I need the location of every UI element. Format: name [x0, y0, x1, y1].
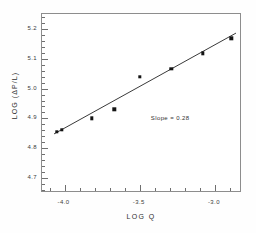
y-axis-minor-tick — [42, 77, 45, 78]
y-axis-minor-tick — [42, 53, 45, 54]
y-axis-major-tick — [42, 89, 48, 90]
y-axis-tick-label: 4.8 — [15, 144, 37, 150]
plot-data-layer — [42, 14, 240, 191]
y-axis-minor-tick — [42, 35, 45, 36]
y-axis-tick-label: 5.2 — [15, 25, 37, 31]
x-axis-minor-tick — [110, 188, 111, 191]
y-axis-minor-tick — [42, 106, 45, 107]
y-axis-minor-tick — [42, 172, 45, 173]
x-axis-minor-tick — [80, 188, 81, 191]
y-axis-major-tick — [42, 178, 48, 179]
y-axis-minor-tick — [42, 190, 45, 191]
x-axis-major-tick — [65, 185, 66, 191]
y-axis-tick-label: 5.0 — [15, 85, 37, 91]
y-axis-minor-tick — [42, 71, 45, 72]
x-axis-major-tick — [140, 185, 141, 191]
data-point — [112, 108, 115, 111]
data-point — [170, 67, 173, 70]
y-axis-minor-tick — [42, 112, 45, 113]
x-axis-tick-label: -4.0 — [58, 199, 70, 205]
y-axis-tick-label: 4.9 — [15, 114, 37, 120]
y-axis-minor-tick — [42, 47, 45, 48]
y-axis-major-tick — [42, 118, 48, 119]
x-axis-minor-tick — [155, 188, 156, 191]
fit-line — [42, 14, 242, 193]
x-axis-title: LOG Q — [41, 213, 241, 220]
x-axis-minor-tick — [200, 188, 201, 191]
data-point — [201, 52, 204, 55]
data-point — [55, 130, 58, 133]
x-axis-minor-tick — [185, 188, 186, 191]
x-axis-minor-tick — [95, 188, 96, 191]
slope-annotation: Slope = 0.28 — [151, 115, 190, 121]
plot-frame — [41, 13, 241, 192]
x-axis-minor-tick — [230, 188, 231, 191]
y-axis-major-tick — [42, 29, 48, 30]
y-axis-minor-tick — [42, 101, 45, 102]
y-axis-minor-tick — [42, 130, 45, 131]
y-axis-minor-tick — [42, 41, 45, 42]
x-axis-tick-label: -3.0 — [208, 199, 220, 205]
data-point — [90, 117, 93, 120]
x-axis-minor-tick — [50, 188, 51, 191]
y-axis-minor-tick — [42, 95, 45, 96]
x-axis-tick-label: -3.5 — [133, 199, 145, 205]
y-axis-minor-tick — [42, 142, 45, 143]
y-axis-major-tick — [42, 148, 48, 149]
x-axis-minor-tick — [125, 188, 126, 191]
y-axis-minor-tick — [42, 136, 45, 137]
y-axis-minor-tick — [42, 154, 45, 155]
y-axis-tick-label: 5.1 — [15, 55, 37, 61]
x-axis-minor-tick — [170, 188, 171, 191]
y-axis-minor-tick — [42, 166, 45, 167]
y-axis-minor-tick — [42, 23, 45, 24]
data-point — [230, 37, 233, 40]
figure-canvas: LOG Q LOG (ΔP/L) Slope = 0.28 -4.0-3.5-3… — [0, 0, 256, 233]
data-point — [138, 75, 141, 78]
y-axis-minor-tick — [42, 17, 45, 18]
y-axis-minor-tick — [42, 83, 45, 84]
x-axis-major-tick — [215, 185, 216, 191]
regression-line — [54, 33, 236, 134]
y-axis-minor-tick — [42, 160, 45, 161]
y-axis-major-tick — [42, 59, 48, 60]
y-axis-minor-tick — [42, 124, 45, 125]
y-axis-minor-tick — [42, 65, 45, 66]
y-axis-tick-label: 4.7 — [15, 174, 37, 180]
data-point — [60, 128, 63, 131]
y-axis-minor-tick — [42, 184, 45, 185]
